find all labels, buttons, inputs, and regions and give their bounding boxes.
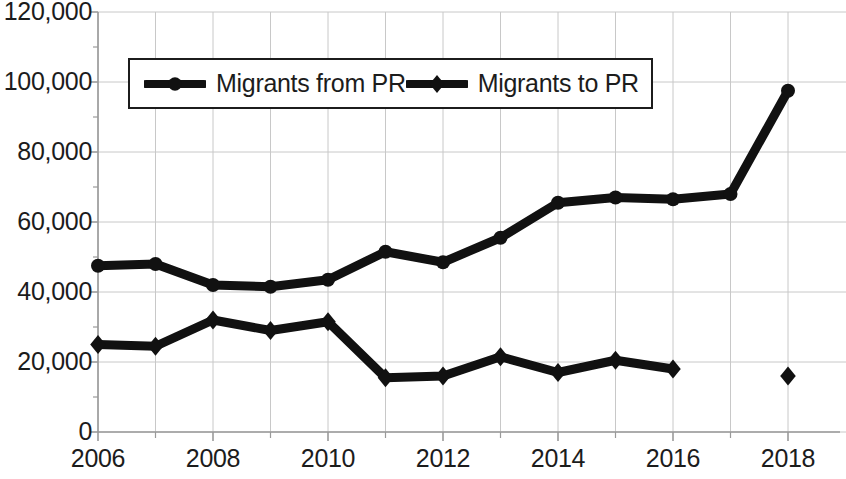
data-point-diamond-marker xyxy=(435,367,451,386)
y-axis-tick-label: 100,000 xyxy=(0,67,92,96)
data-point-circle-marker xyxy=(494,231,508,245)
legend-circle-marker-icon xyxy=(144,71,206,97)
legend-entry-2[interactable]: Migrants to PR xyxy=(406,69,639,98)
migration-line-chart: 020,00040,00060,00080,000100,000120,000 … xyxy=(0,0,846,479)
legend-diamond-marker-icon xyxy=(406,71,468,97)
data-point-circle-marker xyxy=(321,273,335,287)
x-axis-tick-label: 2006 xyxy=(71,444,125,473)
data-point-circle-marker xyxy=(379,245,393,259)
data-point-circle-marker xyxy=(551,196,565,210)
data-point-diamond-marker xyxy=(493,347,509,366)
data-point-diamond-marker xyxy=(608,351,624,370)
x-axis-tick-label: 2008 xyxy=(186,444,240,473)
data-point-circle-marker xyxy=(149,257,163,271)
x-axis-tick-label: 2014 xyxy=(531,444,585,473)
y-axis-tick-label: 120,000 xyxy=(0,0,92,26)
data-point-circle-marker xyxy=(264,280,278,294)
data-point-circle-marker xyxy=(781,84,795,98)
data-point-circle-marker xyxy=(436,255,450,269)
y-axis-tick-label: 20,000 xyxy=(0,347,92,376)
y-axis-tick-label: 60,000 xyxy=(0,207,92,236)
chart-legend: Migrants from PRMigrants to PR xyxy=(128,58,653,109)
data-point-circle-marker xyxy=(206,278,220,292)
data-point-diamond-marker xyxy=(90,335,106,354)
legend-marker xyxy=(168,77,181,90)
data-point-circle-marker xyxy=(91,259,105,273)
isolated-data-point-marker xyxy=(780,367,796,386)
data-point-diamond-marker xyxy=(263,321,279,340)
x-axis-tick-label: 2018 xyxy=(761,444,815,473)
x-axis-tick-label: 2012 xyxy=(416,444,470,473)
data-point-circle-marker xyxy=(724,187,738,201)
y-axis-tick-label: 0 xyxy=(0,417,92,446)
y-axis-tick-label: 40,000 xyxy=(0,277,92,306)
y-axis-tick-label: 80,000 xyxy=(0,137,92,166)
legend-marker xyxy=(429,74,444,92)
data-point-circle-marker xyxy=(666,192,680,206)
legend-entry-1[interactable]: Migrants from PR xyxy=(144,69,406,98)
data-point-circle-marker xyxy=(609,191,623,205)
legend-entry-label: Migrants to PR xyxy=(478,69,639,98)
x-axis-tick-label: 2016 xyxy=(646,444,700,473)
data-point-diamond-marker xyxy=(550,363,566,382)
legend-entry-label: Migrants from PR xyxy=(216,69,406,98)
x-axis-tick-label: 2010 xyxy=(301,444,355,473)
